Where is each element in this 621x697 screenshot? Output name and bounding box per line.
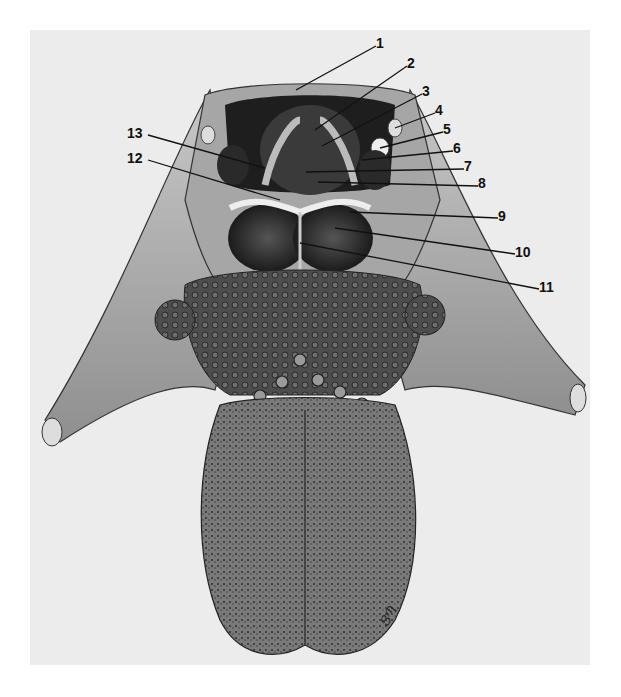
label-10: 10 [515, 245, 531, 259]
label-8: 8 [478, 176, 486, 190]
label-7: 7 [464, 159, 472, 173]
label-3: 3 [422, 84, 430, 98]
tongue-root [184, 270, 422, 395]
label-9: 9 [498, 209, 506, 223]
label-2: 2 [407, 56, 415, 70]
label-6: 6 [453, 141, 461, 155]
label-13: 13 [127, 126, 143, 140]
label-5: 5 [443, 122, 451, 136]
label-11: 11 [539, 280, 554, 294]
tongue-larynx-illustration [0, 0, 621, 697]
label-1: 1 [376, 36, 384, 50]
label-4: 4 [435, 103, 443, 117]
label-12: 12 [127, 151, 143, 165]
